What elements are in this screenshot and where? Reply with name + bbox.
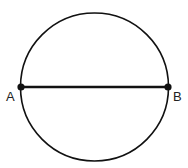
point-a <box>17 83 24 90</box>
label-b: B <box>173 89 182 104</box>
circle-diagram: A B <box>0 0 188 168</box>
point-b <box>164 83 171 90</box>
label-a: A <box>6 89 15 104</box>
